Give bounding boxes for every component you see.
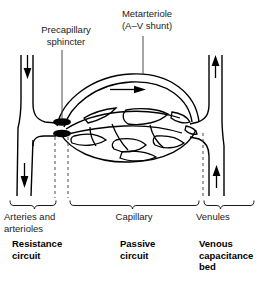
label-arteries-and-arterioles: Arteries and arterioles <box>4 211 68 234</box>
label-metarteriole: Metarteriole (A–V shunt) <box>108 8 186 31</box>
capillary-network-channels <box>66 108 197 161</box>
label-venous-capacitance-bed: Venous capacitance bed <box>199 238 265 273</box>
label-capillary: Capillary <box>104 211 164 223</box>
arteriole-outflow-arrow <box>21 163 29 188</box>
arteriole-vessel <box>17 55 56 196</box>
precapillary-sphincter-lower <box>53 130 71 138</box>
brace-venules <box>204 201 254 210</box>
label-venules: Venules <box>196 211 254 223</box>
metarteriole-channel <box>57 74 199 127</box>
label-passive-circuit: Passive circuit <box>120 238 186 261</box>
metarteriole-flow-arrow <box>110 86 146 93</box>
venule-inflow-arrow <box>213 165 221 188</box>
brace-capillary <box>70 201 199 210</box>
label-precapillary-sphincter: Precapillary sphincter <box>28 24 104 47</box>
brace-arteries <box>10 201 56 210</box>
arteriole-inflow-arrow <box>24 55 32 79</box>
label-resistance-circuit: Resistance circuit <box>12 238 84 261</box>
venule-outflow-arrow <box>212 55 220 78</box>
boundary-dashed-lines <box>55 133 203 198</box>
precapillary-sphincter-upper <box>53 118 71 126</box>
